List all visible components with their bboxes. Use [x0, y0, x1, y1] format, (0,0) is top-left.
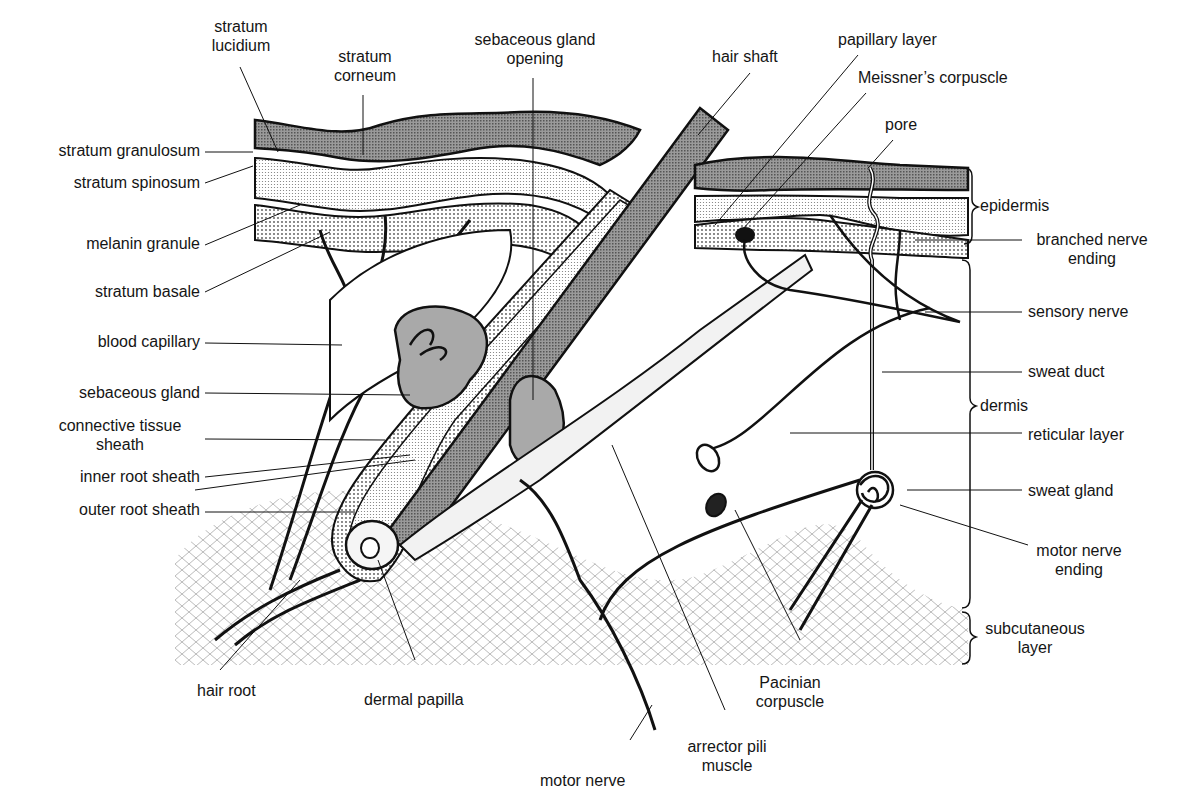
label-blood-capillary: blood capillary — [98, 332, 200, 351]
label-dermis: dermis — [980, 396, 1028, 415]
label-pacinian-corpuscle: Pacinian corpuscle — [740, 673, 840, 711]
label-subcutaneous-layer: subcutaneous layer — [980, 619, 1090, 657]
label-motor-nerve-ending: motor nerve ending — [1024, 541, 1134, 579]
label-branched-nerve-ending: branched nerve ending — [1022, 230, 1162, 268]
label-stratum-spinosum: stratum spinosum — [74, 173, 200, 192]
label-inner-root-sheath: inner root sheath — [80, 467, 200, 486]
stratum-corneum-left — [255, 112, 640, 165]
label-outer-root-sheath: outer root sheath — [79, 500, 200, 519]
label-sweat-gland: sweat gland — [1028, 481, 1113, 500]
label-sebaceous-gland: sebaceous gland — [79, 383, 200, 402]
label-meissners-corpuscle: Meissner’s corpuscle — [858, 68, 1008, 87]
pacinian-corpuscle-shape — [692, 441, 729, 520]
label-pore: pore — [885, 115, 917, 134]
label-papillary-layer: papillary layer — [838, 30, 937, 49]
label-hair-root: hair root — [197, 681, 256, 700]
label-epidermis: epidermis — [980, 196, 1049, 215]
sweat-gland-shape — [857, 472, 893, 508]
label-stratum-lucidium: stratum lucidium — [193, 17, 289, 55]
label-sebaceous-gland-opening: sebaceous gland opening — [460, 30, 610, 68]
label-stratum-corneum: stratum corneum — [320, 47, 410, 85]
label-hair-shaft: hair shaft — [712, 47, 778, 66]
label-melanin-granule: melanin granule — [86, 234, 200, 253]
label-sensory-nerve: sensory nerve — [1028, 302, 1129, 321]
label-stratum-basale: stratum basale — [95, 282, 200, 301]
label-reticular-layer: reticular layer — [1028, 425, 1124, 444]
dermal-papilla-shape — [361, 538, 379, 558]
label-motor-nerve: motor nerve — [540, 771, 625, 790]
label-sweat-duct: sweat duct — [1028, 362, 1104, 381]
label-dermal-papilla: dermal papilla — [364, 690, 464, 709]
stratum-corneum-right — [695, 157, 968, 191]
label-stratum-granulosum: stratum granulosum — [59, 141, 200, 160]
label-connective-tissue-sheath: connective tissue sheath — [40, 416, 200, 454]
label-arrector-pili-muscle: arrector pili muscle — [672, 737, 782, 775]
